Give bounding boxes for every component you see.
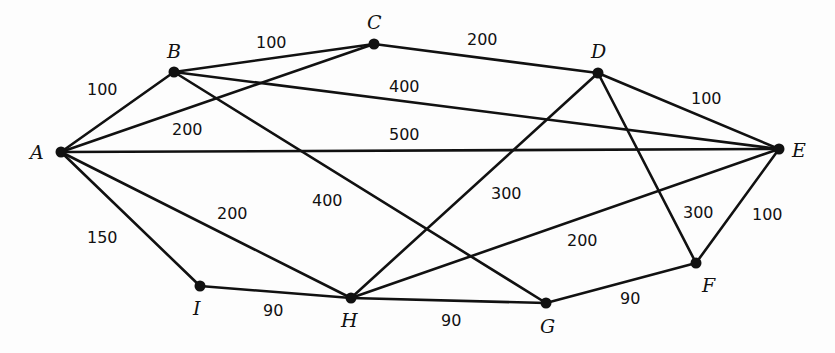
vertex-label: F [701, 274, 716, 296]
edge-weight-label: 200 [172, 120, 203, 139]
edges-layer [61, 44, 779, 303]
vertex-d [593, 68, 604, 79]
vertex-label: G [540, 315, 555, 337]
vertex-a [56, 147, 67, 158]
edge-weight-label: 200 [467, 30, 498, 49]
vertex-label: E [791, 139, 806, 161]
edge-weight-label: 100 [87, 80, 118, 99]
vertex-f [691, 258, 702, 269]
vertex-g [541, 298, 552, 309]
edge-weight-label: 90 [620, 289, 640, 308]
edge-weight-label: 200 [217, 204, 248, 223]
edge-a-i [61, 152, 200, 286]
labels-layer: 1001002002004005001004003002001502003001… [28, 11, 806, 337]
edge-weight-label: 400 [312, 191, 343, 210]
edge-a-e [61, 149, 779, 152]
edge-weight-label: 150 [87, 228, 118, 247]
edge-weight-label: 100 [691, 89, 722, 108]
vertex-c [369, 39, 380, 50]
vertex-label: H [340, 309, 358, 331]
edge-h-g [351, 298, 546, 303]
edge-d-h [351, 73, 598, 298]
edge-weight-label: 300 [683, 203, 714, 222]
edge-weight-label: 100 [256, 33, 287, 52]
edge-d-f [598, 73, 696, 263]
graph-diagram: 1001002002004005001004003002001502003001… [0, 0, 835, 353]
edge-weight-label: 200 [567, 231, 598, 250]
edge-a-h [61, 152, 351, 298]
vertex-label: A [28, 141, 44, 163]
edge-weight-label: 100 [752, 205, 783, 224]
edge-weight-label: 90 [263, 301, 283, 320]
vertex-label: B [166, 40, 181, 62]
edge-weight-label: 400 [389, 77, 420, 96]
vertex-h [346, 293, 357, 304]
vertex-e [774, 144, 785, 155]
edge-weight-label: 500 [389, 125, 420, 144]
edge-weight-label: 300 [491, 184, 522, 203]
vertex-i [195, 281, 206, 292]
vertex-b [169, 67, 180, 78]
vertex-label: C [367, 11, 382, 33]
edge-weight-label: 90 [441, 311, 461, 330]
vertex-label: D [590, 40, 606, 62]
vertex-label: I [192, 297, 201, 319]
graph-canvas: 1001002002004005001004003002001502003001… [0, 0, 835, 353]
